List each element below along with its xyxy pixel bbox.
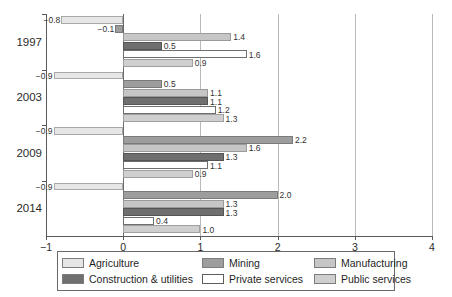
legend-label: Public services <box>341 273 411 285</box>
legend-item-mining[interactable]: Mining <box>202 257 314 269</box>
bar-value-label: 1.6 <box>249 50 261 59</box>
year-label-2009: 2009 <box>8 147 42 159</box>
legend-item-manufacturing[interactable]: Manufacturing <box>314 257 411 269</box>
bar-2003-private <box>123 106 216 114</box>
legend-swatch-public <box>314 274 336 284</box>
x-tick <box>355 236 356 240</box>
bar-2003-construction <box>123 97 208 105</box>
bar-2014-manufacturing <box>123 200 223 208</box>
bar-value-label: 1.1 <box>210 161 222 170</box>
bar-value-label: −0.9 <box>36 183 53 192</box>
legend-swatch-construction <box>62 274 84 284</box>
bar-value-label: 0.4 <box>156 217 168 226</box>
bar-value-label: 0.5 <box>164 42 176 51</box>
legend-item-public[interactable]: Public services <box>314 273 411 285</box>
bar-value-label: 0.5 <box>164 80 176 89</box>
gridline-3 <box>355 14 356 236</box>
bar-value-label: 1.6 <box>249 144 261 153</box>
bar-value-label: −0.8 <box>43 16 60 25</box>
legend-label: Construction & utilities <box>89 273 193 285</box>
bar-2014-private <box>123 217 154 225</box>
bar-2003-mining <box>123 80 162 88</box>
legend-label: Manufacturing <box>341 257 408 269</box>
bar-1997-public <box>123 59 192 67</box>
bar-value-label: 2.2 <box>295 136 307 145</box>
bar-2003-manufacturing <box>123 89 208 97</box>
bar-1997-mining <box>115 25 123 33</box>
legend-swatch-private <box>202 274 224 284</box>
bar-1997-manufacturing <box>123 33 231 41</box>
bar-value-label: 1.3 <box>226 208 238 217</box>
x-tick <box>200 236 201 240</box>
bar-chart: −101234 1997200320092014 −0.8−0.11.40.51… <box>0 0 452 297</box>
bar-value-label: 1.0 <box>202 225 214 234</box>
legend-item-private[interactable]: Private services <box>202 273 314 285</box>
bar-value-label: 1.4 <box>233 33 245 42</box>
bar-2009-mining <box>123 136 293 144</box>
legend-swatch-mining <box>202 258 224 268</box>
x-tick <box>278 236 279 240</box>
bar-1997-private <box>123 50 247 58</box>
year-label-2003: 2003 <box>8 91 42 103</box>
bar-2014-construction <box>123 208 223 216</box>
x-axis-line <box>46 236 432 237</box>
bar-value-label: 0.9 <box>195 170 207 179</box>
x-tick <box>123 236 124 240</box>
bar-2009-public <box>123 170 192 178</box>
plot-area <box>46 14 432 236</box>
bar-value-label: 1.3 <box>226 153 238 162</box>
bar-value-label: 2.0 <box>280 191 292 200</box>
legend-swatch-manufacturing <box>314 258 336 268</box>
legend-label: Private services <box>229 273 303 285</box>
x-tick <box>432 236 433 240</box>
x-tick-label: 4 <box>429 241 435 253</box>
gridline-2 <box>278 14 279 236</box>
plot-frame <box>46 14 432 236</box>
year-label-1997: 1997 <box>8 36 42 48</box>
bar-value-label: 1.3 <box>226 114 238 123</box>
bar-1997-construction <box>123 42 162 50</box>
chart-legend: AgricultureMiningManufacturingConstructi… <box>57 251 395 291</box>
bar-2014-agriculture <box>54 183 123 191</box>
bar-value-label: −0.9 <box>36 72 53 81</box>
bar-2003-agriculture <box>54 72 123 80</box>
gridline-4 <box>432 14 433 236</box>
legend-item-construction[interactable]: Construction & utilities <box>62 273 202 285</box>
x-tick-label: −1 <box>40 241 52 253</box>
legend-swatch-agriculture <box>62 258 84 268</box>
bar-2003-public <box>123 114 223 122</box>
x-tick <box>46 236 47 240</box>
year-label-2014: 2014 <box>8 202 42 214</box>
bar-value-label: −0.9 <box>36 127 53 136</box>
bar-2009-construction <box>123 153 223 161</box>
bar-value-label: 0.9 <box>195 59 207 68</box>
bar-2014-mining <box>123 191 277 199</box>
bar-2014-public <box>123 225 200 233</box>
legend-label: Agriculture <box>89 257 139 269</box>
legend-item-agriculture[interactable]: Agriculture <box>62 257 202 269</box>
bar-value-label: −0.1 <box>97 25 114 34</box>
bar-2009-agriculture <box>54 127 123 135</box>
legend-label: Mining <box>229 257 260 269</box>
